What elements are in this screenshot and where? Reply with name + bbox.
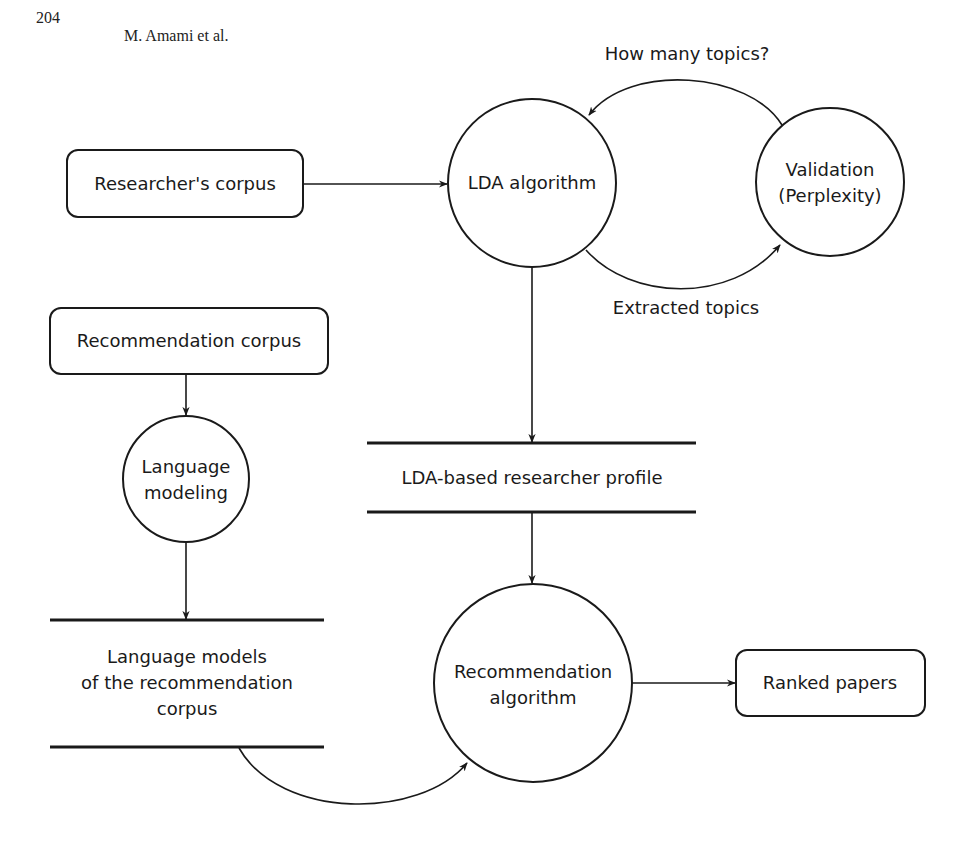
how-many-topics-label: How many topics? — [605, 43, 770, 65]
recommendation-corpus-text: Recommendation corpus — [77, 330, 301, 351]
arrow-extracted-topics — [586, 245, 780, 289]
validation-text-line2: (Perplexity) — [778, 183, 881, 209]
language-models-text-line2: of the recommendation — [81, 670, 293, 696]
language-models-label: Language models of the recommendation co… — [81, 644, 293, 722]
ranked-papers-text: Ranked papers — [763, 672, 897, 693]
language-models-text-line3: corpus — [81, 696, 293, 722]
recommendation-algorithm-text-line2: algorithm — [454, 685, 612, 711]
language-modeling-text-line2: modeling — [142, 480, 231, 506]
researchers-corpus-label: Researcher's corpus — [94, 171, 276, 197]
validation-label: Validation (Perplexity) — [778, 157, 881, 209]
lda-profile-text: LDA-based researcher profile — [402, 467, 663, 488]
arrow-models-to-recommendation — [239, 748, 467, 804]
lda-profile-label: LDA-based researcher profile — [402, 465, 663, 491]
arrow-how-many-topics — [589, 80, 782, 125]
lda-algorithm-text: LDA algorithm — [468, 172, 596, 193]
validation-text-line1: Validation — [778, 157, 881, 183]
extracted-topics-label: Extracted topics — [613, 297, 759, 319]
recommendation-corpus-label: Recommendation corpus — [77, 328, 301, 354]
researchers-corpus-text: Researcher's corpus — [94, 173, 276, 194]
language-modeling-label: Language modeling — [142, 454, 231, 506]
recommendation-algorithm-text-line1: Recommendation — [454, 659, 612, 685]
lda-algorithm-label: LDA algorithm — [468, 170, 596, 196]
language-modeling-text-line1: Language — [142, 454, 231, 480]
recommendation-algorithm-label: Recommendation algorithm — [454, 659, 612, 711]
language-models-text-line1: Language models — [81, 644, 293, 670]
ranked-papers-label: Ranked papers — [763, 670, 897, 696]
